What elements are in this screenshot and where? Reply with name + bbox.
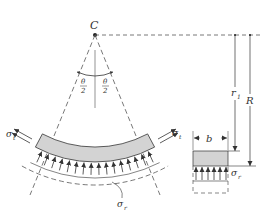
radial-pressure-arrow (148, 151, 153, 162)
r1-label: r 1 (231, 87, 241, 100)
hoop-stress-right: σ t (158, 128, 182, 143)
svg-text:2: 2 (102, 87, 108, 95)
wedge-right-dashed-line (95, 35, 160, 195)
svg-text:σ: σ (231, 168, 238, 178)
radial-pressure-arrow (113, 162, 115, 174)
section-dashed-outline (193, 166, 228, 193)
radial-pressure-arrow (44, 154, 48, 165)
cross-section-rect (193, 151, 228, 166)
svg-text:2: 2 (80, 87, 86, 95)
radial-pressure-arrow (128, 159, 131, 171)
angle-label-left: θ 2 (80, 78, 87, 95)
hoop-stress-left: σ t (6, 129, 32, 143)
angle-label-right: θ 2 (102, 78, 109, 95)
svg-text:1: 1 (237, 93, 241, 100)
r1-tick (234, 34, 236, 36)
radial-stress-leader (112, 182, 122, 198)
radial-pressure-arrow (120, 160, 122, 172)
radial-pressure-arrow (75, 162, 77, 174)
radial-pressure-arrow (52, 157, 56, 168)
R-label: R (245, 95, 254, 106)
svg-text:θ: θ (81, 78, 86, 86)
svg-text:σ: σ (172, 128, 179, 138)
radial-pressure-arrow (67, 160, 69, 172)
radial-stress-label-bottom: σ r (117, 199, 128, 211)
curved-beam-diagram: C θ 2 θ 2 σ t σ t σ r (0, 0, 267, 213)
svg-text:σ: σ (6, 129, 13, 139)
svg-text:σ: σ (117, 199, 124, 209)
svg-text:r: r (238, 173, 242, 180)
radial-pressure-arrow (142, 154, 146, 165)
radial-pressure-arrow (135, 157, 139, 168)
svg-text:t: t (179, 133, 182, 140)
svg-text:r: r (124, 204, 128, 211)
svg-text:θ: θ (103, 78, 108, 86)
pressure-base-arc (30, 163, 159, 178)
wedge-left-dashed-line (30, 35, 95, 195)
curved-beam-segment (35, 134, 154, 162)
width-label: b (206, 133, 212, 144)
radial-pressure-arrow (37, 151, 42, 162)
center-label: C (90, 19, 99, 32)
radial-pressure-arrow (83, 163, 84, 175)
section-pressure-arrows (193, 167, 228, 181)
radial-stress-label-section: σ r (231, 168, 242, 180)
R-tick (249, 34, 251, 36)
radial-pressure-arrow (59, 159, 62, 171)
radial-pressure-arrow (106, 163, 107, 175)
